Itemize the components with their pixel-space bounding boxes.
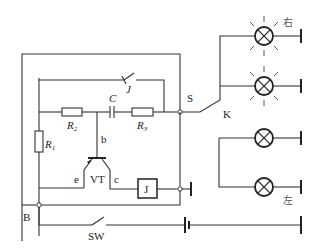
- battery-line: [22, 203, 301, 234]
- lamp-left-2: [255, 178, 301, 196]
- resistor-r1: [35, 131, 43, 152]
- label-b: b: [101, 133, 107, 145]
- lamp-right-2: [250, 66, 301, 106]
- label-e: e: [74, 173, 79, 185]
- label-s: S: [187, 92, 193, 104]
- relay-coil-j: [39, 112, 191, 205]
- label-r1: R1: [44, 138, 55, 152]
- resistor-r2: [62, 108, 82, 116]
- label-vt: VT: [90, 173, 105, 185]
- label-right: 右: [283, 16, 293, 28]
- switch-sw: [92, 217, 104, 225]
- label-r3: R3: [136, 119, 148, 133]
- resistor-r3: [132, 108, 153, 116]
- circuit-diagram: R1 R2 R3 C J b e VT c J S K B SW 右 左: [0, 0, 321, 252]
- label-j-relay: J: [144, 183, 149, 195]
- rc-network: [39, 36, 255, 118]
- label-sw: SW: [88, 230, 105, 242]
- label-j-switch: J: [126, 83, 132, 95]
- selector-k: [219, 138, 255, 187]
- node-b: [37, 203, 41, 207]
- lamp-left-1: [255, 129, 301, 147]
- label-c: C: [109, 92, 117, 104]
- label-c-collector: c: [114, 173, 119, 185]
- label-r2: R2: [66, 119, 78, 133]
- label-left: 左: [283, 194, 293, 206]
- r1-branch: [35, 80, 84, 236]
- label-b-node: B: [23, 211, 30, 223]
- lamp-right-1: [250, 16, 301, 56]
- label-k: K: [223, 108, 231, 120]
- relay-contact-loop: [39, 73, 164, 112]
